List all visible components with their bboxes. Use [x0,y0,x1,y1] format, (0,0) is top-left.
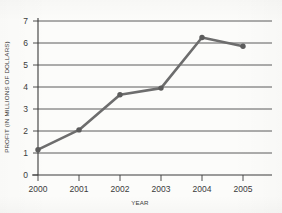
y-tick-label-3: 3 [23,104,28,114]
data-point-2002 [117,92,122,97]
x-tick-label-2003: 2003 [152,184,171,194]
data-point-2000 [35,147,40,152]
y-tick-label-6: 6 [23,38,28,48]
y-tick-labels: 7 6 5 4 3 2 1 0 [23,16,28,180]
x-tick-label-2000: 2000 [29,184,48,194]
y-tick-label-4: 4 [23,82,28,92]
chart-plot-area: 7 6 5 4 3 2 1 0 2000 2001 2002 2003 2004… [0,0,282,213]
y-tick-label-1: 1 [23,148,28,158]
x-tick-label-2002: 2002 [111,184,130,194]
y-tick-label-7: 7 [23,16,28,26]
data-series-line [38,38,243,150]
x-tick-label-2001: 2001 [70,184,89,194]
y-tick-label-0: 0 [23,170,28,180]
x-tick-labels: 2000 2001 2002 2003 2004 2005 [29,184,253,194]
x-tick-label-2004: 2004 [193,184,212,194]
y-tick-label-5: 5 [23,60,28,70]
x-tick-marks [38,175,243,181]
y-tick-label-2: 2 [23,126,28,136]
data-point-2004 [199,35,204,40]
x-tick-label-2005: 2005 [234,184,253,194]
data-point-2003 [158,85,163,90]
x-axis-title: YEAR [131,199,149,206]
data-point-2005 [240,44,245,49]
line-chart-figure: 7 6 5 4 3 2 1 0 2000 2001 2002 2003 2004… [0,0,282,213]
y-axis-title: PROFIT (IN MILLIONS OF DOLLARS) [3,41,10,153]
data-point-2001 [76,127,81,132]
